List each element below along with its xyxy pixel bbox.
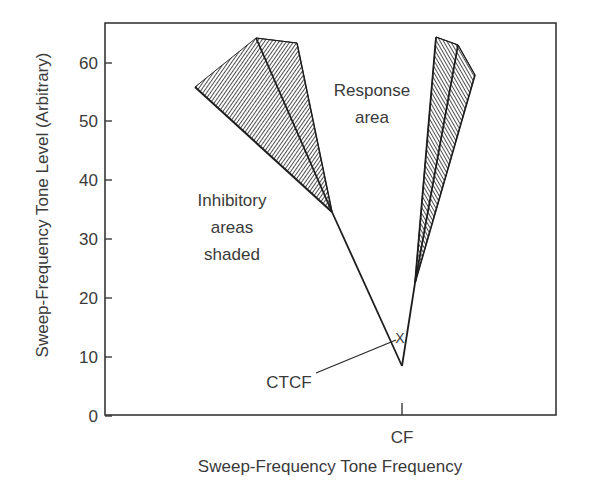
response-area-line2: area xyxy=(355,108,390,127)
cf-tick-label: CF xyxy=(391,428,414,447)
tuning-curve-high-branch xyxy=(402,283,415,366)
y-tick-labels: 0 10 20 30 40 50 60 xyxy=(79,54,98,426)
inhibitory-areas-annotation: Inhibitory areas shaded xyxy=(198,191,267,264)
y-tick-30: 30 xyxy=(79,230,98,249)
response-area-annotation: Response area xyxy=(334,81,411,127)
y-tick-20: 20 xyxy=(79,289,98,308)
ctcf-label: CTCF xyxy=(266,373,311,392)
y-axis-title: Sweep-Frequency Tone Level (Arbitrary) xyxy=(33,53,52,358)
y-tick-40: 40 xyxy=(79,171,98,190)
inhibitory-area-low-frequency xyxy=(195,38,332,212)
inhibitory-line1: Inhibitory xyxy=(198,191,267,210)
tuning-curve-diagram: 0 10 20 30 40 50 60 CF Sweep-Frequency T… xyxy=(0,0,592,500)
tuning-curve-low-branch xyxy=(332,212,402,366)
y-tick-60: 60 xyxy=(79,54,98,73)
y-tick-50: 50 xyxy=(79,112,98,131)
y-tick-0: 0 xyxy=(89,407,98,426)
inhibitory-line2: areas xyxy=(211,218,254,237)
inhibitory-line3: shaded xyxy=(204,245,260,264)
ctcf-leader-line xyxy=(316,340,396,373)
y-tick-10: 10 xyxy=(79,348,98,367)
ctcf-marker: X xyxy=(395,330,405,346)
x-axis-title: Sweep-Frequency Tone Frequency xyxy=(198,457,463,476)
y-axis-ticks xyxy=(105,63,112,416)
inhibitory-area-high-frequency xyxy=(415,37,475,283)
response-area-line1: Response xyxy=(334,81,411,100)
plot-frame xyxy=(105,23,556,415)
